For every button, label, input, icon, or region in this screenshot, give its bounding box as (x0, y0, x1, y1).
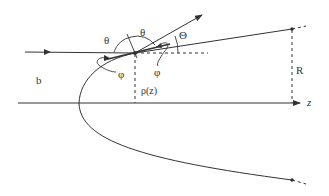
phi-right-label: φ (154, 66, 160, 78)
theta-right-label: θ (140, 26, 145, 38)
radius-label: R (296, 64, 304, 76)
lower-end-point (290, 178, 294, 182)
theta-left-arc (114, 37, 131, 52)
theta-left-label: θ (104, 34, 109, 46)
impact-parameter-label: b (36, 74, 42, 86)
phi-left-arrow-icon (104, 55, 110, 61)
trajectory-curve (79, 29, 292, 180)
incoming-ray-arrow-icon (44, 49, 51, 55)
incoming-ray (25, 49, 135, 55)
z-axis-label: z (306, 96, 312, 108)
big-theta-label: Θ (179, 29, 187, 41)
big-theta-arc (175, 36, 178, 53)
lower-asymptote-dash (292, 180, 306, 184)
upper-asymptote-dash (292, 26, 306, 29)
rho-label: ρ(z) (141, 85, 157, 97)
scattering-trajectory-diagram: z R ρ(z) θ θ Θ φ φ b (0, 0, 329, 196)
phi-left-label: φ (118, 68, 124, 80)
